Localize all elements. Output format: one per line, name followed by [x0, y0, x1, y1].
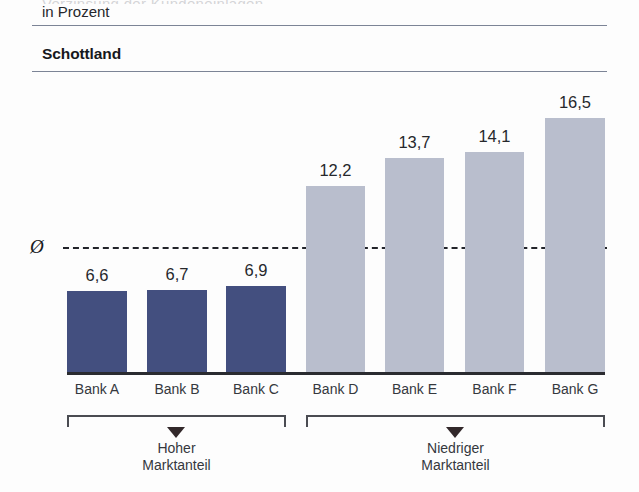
bar-rect-bank-g	[545, 118, 605, 373]
bar-group-bank-g: 16,5	[545, 118, 605, 373]
chart-title: Schottland	[42, 45, 121, 63]
category-label-bank-c: Bank C	[226, 381, 286, 397]
bar-rect-bank-b	[147, 290, 207, 373]
bar-value-bank-d: 12,2	[306, 161, 365, 180]
bar-value-bank-a: 6,6	[67, 266, 127, 285]
group-caption-high-share-line2: Marktanteil	[67, 457, 286, 474]
axis-baseline	[67, 372, 605, 375]
bar-group-bank-c: 6,9	[226, 286, 286, 373]
header-divider-bottom	[32, 71, 607, 72]
category-label-bank-f: Bank F	[465, 381, 524, 397]
bar-rect-bank-a	[67, 291, 127, 373]
chart-page: { "header": { "clipped_top_line": "Verzi…	[0, 0, 639, 492]
bar-value-bank-c: 6,9	[226, 261, 286, 280]
group-caption-low-share: Niedriger Marktanteil	[306, 440, 605, 474]
bar-rect-bank-d	[306, 186, 365, 373]
bar-group-bank-a: 6,6	[67, 291, 127, 373]
group-bracket-low-share	[306, 415, 605, 427]
bar-value-bank-b: 6,7	[147, 265, 207, 284]
header-divider-top	[32, 25, 607, 26]
bar-group-bank-f: 14,1	[465, 152, 524, 373]
group-pointer-high-share	[167, 427, 185, 438]
chart-plot-area: Ø 6,6 6,7 6,9 12,2 13,7 14,1 16,5 Bank A…	[0, 78, 639, 492]
group-pointer-low-share	[446, 427, 464, 438]
bar-value-bank-g: 16,5	[545, 93, 605, 112]
group-caption-low-share-line1: Niedriger	[306, 440, 605, 457]
bar-group-bank-d: 12,2	[306, 186, 365, 373]
group-caption-high-share-line1: Hoher	[67, 440, 286, 457]
category-label-bank-a: Bank A	[67, 381, 127, 397]
bar-rect-bank-c	[226, 286, 286, 373]
category-label-bank-b: Bank B	[147, 381, 207, 397]
category-label-bank-e: Bank E	[385, 381, 444, 397]
category-label-bank-g: Bank G	[545, 381, 605, 397]
group-caption-high-share: Hoher Marktanteil	[67, 440, 286, 474]
clipped-title-line: Verzinsung der Kundeneinlagen	[42, 0, 562, 4]
chart-subtitle: in Prozent	[42, 3, 110, 20]
bar-rect-bank-f	[465, 152, 524, 373]
bar-value-bank-f: 14,1	[465, 127, 524, 146]
bar-group-bank-b: 6,7	[147, 290, 207, 373]
average-symbol: Ø	[30, 236, 44, 258]
bar-rect-bank-e	[385, 158, 444, 373]
chart-header: Verzinsung der Kundeneinlagen in Prozent…	[0, 0, 639, 78]
group-bracket-high-share	[67, 415, 286, 427]
category-label-bank-d: Bank D	[306, 381, 365, 397]
bar-group-bank-e: 13,7	[385, 158, 444, 373]
group-caption-low-share-line2: Marktanteil	[306, 457, 605, 474]
bar-value-bank-e: 13,7	[385, 133, 444, 152]
